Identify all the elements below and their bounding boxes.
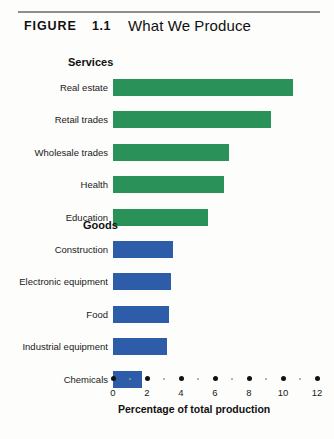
x-tick-label: 10 (271, 387, 295, 398)
group-heading-services: Services (68, 56, 113, 68)
bar-real-estate (113, 79, 293, 96)
bar-row: Food (0, 306, 334, 323)
x-tick-major (179, 376, 184, 381)
bar-category-label: Construction (55, 241, 108, 258)
bar-chart-plot: ServicesReal estateRetail tradesWholesal… (0, 0, 334, 439)
x-tick-minor (231, 378, 233, 380)
bar-category-label: Retail trades (55, 111, 108, 128)
x-tick-major (247, 376, 252, 381)
bar-retail-trades (113, 111, 271, 128)
x-tick-major (315, 376, 320, 381)
x-tick-label: 0 (101, 387, 125, 398)
bar-row: Retail trades (0, 111, 334, 128)
bar-education (113, 209, 208, 226)
bar-row: Real estate (0, 79, 334, 96)
bar-row: Education (0, 209, 334, 226)
bar-row: Industrial equipment (0, 338, 334, 355)
x-axis-title: Percentage of total production (118, 403, 270, 415)
x-tick-minor (129, 378, 131, 380)
x-tick-minor (265, 378, 267, 380)
x-tick-minor (299, 378, 301, 380)
x-tick-minor (163, 378, 165, 380)
bar-row: Wholesale trades (0, 144, 334, 161)
bar-category-label: Electronic equipment (19, 273, 108, 290)
x-tick-major (145, 376, 150, 381)
x-tick-label: 8 (237, 387, 261, 398)
bar-electronic-equipment (113, 273, 171, 290)
bar-category-label: Real estate (60, 79, 108, 96)
bar-row: Health (0, 176, 334, 193)
x-tick-label: 6 (203, 387, 227, 398)
x-tick-major (281, 376, 286, 381)
bar-row: Construction (0, 241, 334, 258)
x-tick-major (213, 376, 218, 381)
bar-construction (113, 241, 173, 258)
figure-root: FIGURE 1.1 What We Produce ServicesReal … (0, 0, 334, 439)
bar-row: Electronic equipment (0, 273, 334, 290)
bar-category-label: Health (81, 176, 108, 193)
bar-category-label: Wholesale trades (35, 144, 108, 161)
bar-health (113, 176, 224, 193)
bar-food (113, 306, 169, 323)
group-heading-goods: Goods (83, 219, 118, 231)
x-tick-label: 4 (169, 387, 193, 398)
bar-wholesale-trades (113, 144, 229, 161)
x-tick-minor (197, 378, 199, 380)
bar-category-label: Food (86, 306, 108, 323)
bar-category-label: Industrial equipment (22, 338, 108, 355)
x-tick-label: 12 (305, 387, 329, 398)
bar-industrial-equipment (113, 338, 167, 355)
x-axis: Percentage of total production 024681012 (0, 376, 334, 416)
x-tick-label: 2 (135, 387, 159, 398)
x-tick-major (111, 376, 116, 381)
